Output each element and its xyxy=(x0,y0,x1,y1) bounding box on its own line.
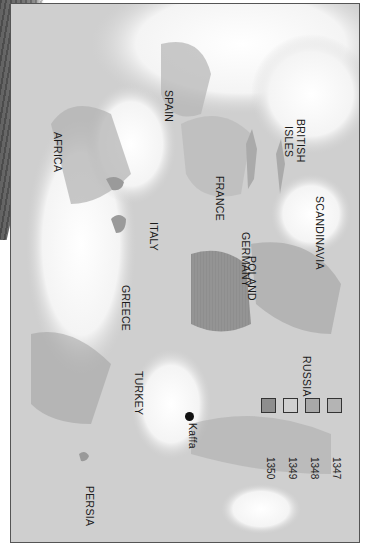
region-label-france: FRANCE xyxy=(213,176,225,221)
region-label-africa: AFRICA xyxy=(51,132,63,172)
region-label-british-isles-line1: BRITISH xyxy=(294,119,306,163)
region-label-greece: GREECE xyxy=(119,285,131,331)
city-label-kaffa: Kaffa xyxy=(186,423,198,449)
region-label-persia: PERSIA xyxy=(83,486,95,526)
legend-swatch-1348 xyxy=(305,398,320,413)
legend-label-1348: 1348 xyxy=(309,457,320,479)
legend-label-1350: 1350 xyxy=(265,457,276,479)
city-marker-kaffa xyxy=(185,412,194,421)
region-label-italy: ITALY xyxy=(147,222,159,251)
legend-label-1347: 1347 xyxy=(331,457,342,479)
legend-swatch-1349 xyxy=(283,398,298,413)
region-label-spain: SPAIN xyxy=(162,90,174,122)
legend-swatch-1350 xyxy=(261,398,276,413)
region-label-poland: POLAND xyxy=(245,256,257,301)
legend-label-1349: 1349 xyxy=(287,457,298,479)
region-label-turkey: TURKEY xyxy=(132,371,144,415)
region-label-russia: RUSSIA xyxy=(300,356,312,397)
region-label-british-isles-line2: ISLES xyxy=(282,126,294,157)
map-frame: AFRICA SPAIN FRANCE BRITISH ISLES SCANDI… xyxy=(10,3,360,543)
region-label-scandinavia: SCANDINAVIA xyxy=(313,196,325,270)
terrain-layer xyxy=(11,4,360,543)
legend-swatch-1347 xyxy=(327,398,342,413)
